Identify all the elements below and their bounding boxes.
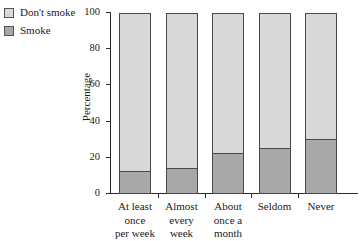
bar-segment-smoke <box>213 153 243 193</box>
x-tick <box>251 194 252 198</box>
x-axis-label-line: month <box>205 227 252 241</box>
bar-4 <box>305 13 337 194</box>
x-tick <box>158 194 159 198</box>
x-axis-label: Almostevery week <box>158 200 205 241</box>
y-tick-label: 100 <box>84 7 100 18</box>
plot-area: 020406080100 At leastonceper weekAlmoste… <box>110 12 358 195</box>
x-axis-label-line: once a <box>205 214 252 228</box>
y-tick: 100 <box>106 12 111 13</box>
x-axis-label: Seldom <box>251 200 298 214</box>
legend-label-dont-smoke: Don't smoke <box>20 7 75 18</box>
bar-1 <box>166 13 198 194</box>
y-tick-label: 60 <box>90 79 101 90</box>
bar-segment-smoke <box>120 171 150 193</box>
y-tick: 0 <box>106 193 111 194</box>
bar-segment-smoke <box>260 148 290 193</box>
x-axis-label-line: per week <box>112 227 159 241</box>
y-tick: 80 <box>106 48 111 49</box>
legend-swatch-smoke <box>4 26 14 36</box>
x-axis-label: Never <box>298 200 345 214</box>
x-axis-label-line: Never <box>298 200 345 214</box>
bar-segment-dont-smoke <box>260 14 290 148</box>
bar-segment-dont-smoke <box>167 14 197 168</box>
bar-segment-dont-smoke <box>213 14 243 153</box>
bar-2 <box>212 13 244 194</box>
legend-swatch-dont-smoke <box>4 8 14 18</box>
y-tick-label: 20 <box>90 152 101 163</box>
bar-0 <box>119 13 151 194</box>
x-axis-label-line: About <box>205 200 252 214</box>
y-tick: 20 <box>106 157 111 158</box>
x-axis-label: Aboutonce amonth <box>205 200 252 241</box>
y-tick-label: 0 <box>95 188 100 199</box>
y-tick-label: 80 <box>90 43 101 54</box>
x-axis-label-line: once <box>112 214 159 228</box>
bar-segment-smoke <box>167 168 197 193</box>
bar-segment-dont-smoke <box>306 14 336 139</box>
x-axis-label-line: Seldom <box>251 200 298 214</box>
bar-3 <box>259 13 291 194</box>
y-tick: 40 <box>106 121 111 122</box>
legend-label-smoke: Smoke <box>20 25 51 36</box>
x-axis-label-line: every week <box>158 214 205 241</box>
bar-segment-smoke <box>306 139 336 193</box>
x-tick <box>205 194 206 198</box>
y-tick: 60 <box>106 84 111 85</box>
x-axis-label-line: Almost <box>158 200 205 214</box>
y-axis-line <box>110 12 111 194</box>
x-axis-label-line: At least <box>112 200 159 214</box>
y-tick-label: 40 <box>90 115 101 126</box>
x-axis-label: At leastonceper week <box>112 200 159 241</box>
legend-item-smoke: Smoke <box>4 23 104 38</box>
x-tick <box>298 194 299 198</box>
bar-segment-dont-smoke <box>120 14 150 171</box>
chart-figure: Don't smoke Smoke Percentage 02040608010… <box>0 0 361 241</box>
